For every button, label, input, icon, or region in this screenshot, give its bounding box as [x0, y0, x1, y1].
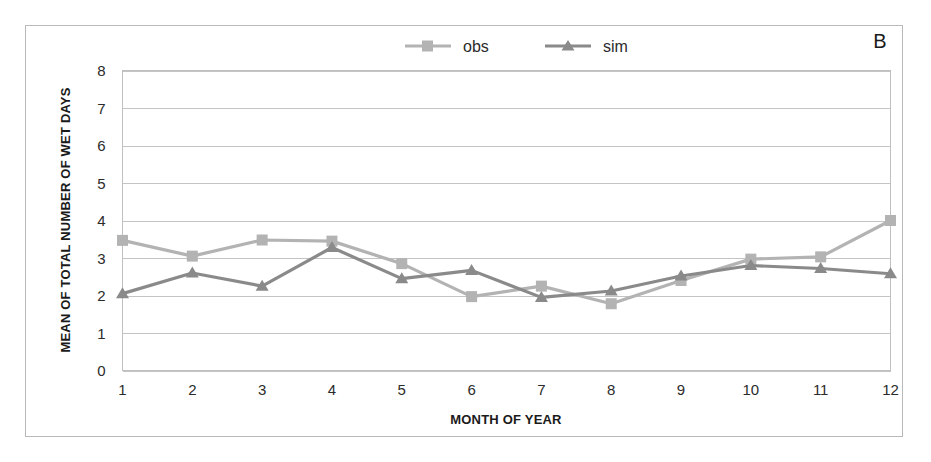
y-tick-label-4: 4 — [97, 212, 105, 229]
marker-obs-7 — [536, 281, 547, 292]
data-series-group — [116, 215, 897, 309]
chart-canvas: 012345678 123456789101112 MEAN OF TOTAL … — [0, 0, 931, 462]
chart-legend: obssim — [405, 38, 628, 55]
y-axis-title: MEAN OF TOTAL NUMBER OF WET DAYS — [58, 87, 73, 352]
marker-obs-12 — [885, 215, 896, 226]
x-tick-label-5: 5 — [398, 381, 406, 398]
y-tick-label-3: 3 — [97, 250, 105, 267]
legend-item-sim[interactable]: sim — [545, 38, 628, 55]
x-tick-label-11: 11 — [813, 381, 829, 398]
marker-obs-1 — [117, 235, 128, 246]
y-tick-label-1: 1 — [97, 325, 105, 342]
x-tick-label-4: 4 — [328, 381, 336, 398]
x-tick-label-1: 1 — [118, 381, 126, 398]
x-tick-label-9: 9 — [677, 381, 685, 398]
marker-obs-8 — [606, 298, 617, 309]
plot-area-border — [123, 71, 891, 371]
legend-label-obs: obs — [463, 38, 489, 55]
series-line-obs — [123, 221, 891, 304]
x-tick-label-8: 8 — [607, 381, 615, 398]
y-tick-label-8: 8 — [97, 62, 105, 79]
marker-obs-3 — [257, 235, 268, 246]
marker-obs-11 — [815, 251, 826, 262]
y-axis-tick-labels: 012345678 — [97, 62, 105, 379]
x-tick-label-10: 10 — [743, 381, 760, 398]
marker-sim-2 — [186, 267, 199, 278]
panel-label: B — [873, 30, 886, 52]
legend-item-obs[interactable]: obs — [405, 38, 489, 55]
x-tick-label-7: 7 — [537, 381, 545, 398]
y-tick-label-7: 7 — [97, 100, 105, 117]
y-tick-label-6: 6 — [97, 137, 105, 154]
figure-container: 012345678 123456789101112 MEAN OF TOTAL … — [0, 0, 931, 462]
marker-obs-2 — [187, 251, 198, 262]
y-tick-label-0: 0 — [97, 362, 105, 379]
x-axis-tick-labels: 123456789101112 — [118, 381, 899, 398]
x-tick-label-3: 3 — [258, 381, 266, 398]
legend-marker-obs — [422, 41, 433, 52]
legend-label-sim: sim — [603, 38, 628, 55]
y-tick-label-5: 5 — [97, 175, 105, 192]
x-tick-label-6: 6 — [467, 381, 475, 398]
y-tick-label-2: 2 — [97, 287, 105, 304]
marker-obs-5 — [396, 258, 407, 269]
gridlines — [123, 72, 891, 372]
x-tick-label-2: 2 — [188, 381, 196, 398]
series-obs — [117, 215, 896, 309]
x-tick-label-12: 12 — [882, 381, 899, 398]
marker-obs-6 — [466, 291, 477, 302]
x-axis-title: MONTH OF YEAR — [450, 412, 562, 427]
